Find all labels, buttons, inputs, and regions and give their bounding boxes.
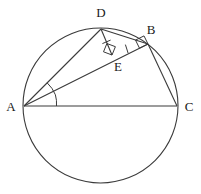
geometry-canvas: A B C D E xyxy=(0,0,201,194)
tick-mark-eb xyxy=(125,45,128,54)
segment-ad xyxy=(24,29,101,106)
point-label-d: D xyxy=(96,5,105,20)
geometry-figure: A B C D E xyxy=(0,0,201,194)
segment-bc xyxy=(148,44,177,106)
point-label-a: A xyxy=(6,99,16,114)
angle-arc-eac xyxy=(55,95,56,106)
angle-arc-dae xyxy=(47,83,55,95)
point-label-c: C xyxy=(185,99,194,114)
point-label-e: E xyxy=(114,59,122,74)
point-label-b: B xyxy=(147,22,156,37)
